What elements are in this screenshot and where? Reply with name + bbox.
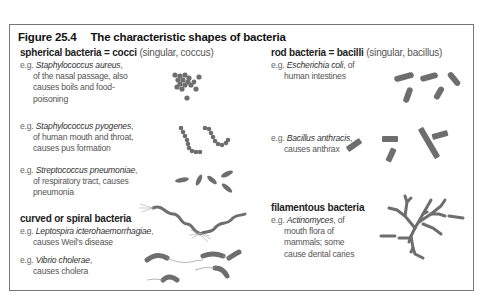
figure-title: Figure 25.4The characteristic shapes of … xyxy=(18,31,286,43)
vibrio-curved-rods-illustration xyxy=(135,250,250,288)
spherical-heading-bold: spherical bacteria = cocci xyxy=(20,47,137,58)
desc-line: pneumonia xyxy=(20,187,170,198)
desc-line: of the nasal passage, also xyxy=(20,71,160,82)
actinomyces-filaments-illustration xyxy=(375,190,470,265)
species-name: Vibrio cholerae xyxy=(36,255,90,265)
example-staph-pyogenes: e.g. Staphylococcus pyogenes, of human m… xyxy=(20,121,170,155)
desc-inline: of xyxy=(348,60,355,70)
rod-heading-sub: (singular, bacillus) xyxy=(366,47,442,58)
eg-prefix: e.g. xyxy=(20,60,34,70)
desc-line: causes boils and food- xyxy=(20,82,160,93)
desc-line: poisoning xyxy=(20,94,160,105)
species-name: Bacillus anthracis xyxy=(287,133,350,143)
spiral-heading: curved or spiral bacteria xyxy=(20,213,131,224)
eg-prefix: e.g. xyxy=(20,255,34,265)
example-e-coli: e.g. Escherichia coli, of human intestin… xyxy=(271,60,401,82)
desc-inline: of xyxy=(338,215,345,225)
staphylococcus-cluster-illustration xyxy=(170,72,220,112)
species-name: Staphylococcus aureus xyxy=(36,60,121,70)
eg-prefix: e.g. xyxy=(20,165,34,175)
diplococcus-pairs-illustration xyxy=(172,168,242,198)
e-coli-rods-illustration xyxy=(390,70,470,110)
species-name: Escherichia coli xyxy=(287,60,344,70)
rod-heading-bold: rod bacteria = bacilli xyxy=(271,47,364,58)
species-name: Streptococcus pneumoniae xyxy=(36,165,135,175)
species-name: Actinomyces xyxy=(287,215,334,225)
figure-title-text: The characteristic shapes of bacteria xyxy=(91,31,286,43)
bacillus-anthracis-rods-illustration xyxy=(350,122,460,172)
desc-line: mouth flora of xyxy=(271,226,381,237)
filamentous-heading-bold: filamentous bacteria xyxy=(271,202,364,213)
species-name: Leptospira icterohaemorrhagiae xyxy=(36,226,151,236)
eg-prefix: e.g. xyxy=(271,133,285,143)
example-staph-aureus: e.g. Staphylococcus aureus, of the nasal… xyxy=(20,60,160,105)
figure-number: Figure 25.4 xyxy=(18,31,77,43)
spherical-heading-sub: (singular, coccus) xyxy=(139,47,213,58)
spherical-heading: spherical bacteria = cocci (singular, co… xyxy=(20,47,214,58)
desc-line: mammals; some xyxy=(271,237,381,248)
leptospira-spirals-illustration xyxy=(135,200,250,245)
filamentous-heading: filamentous bacteria xyxy=(271,202,364,213)
species-name: Staphylococcus pyogenes xyxy=(36,121,131,131)
desc-line: of human mouth and throat, xyxy=(20,132,170,143)
desc-line: human intestines xyxy=(271,71,401,82)
streptococcus-chains-illustration xyxy=(178,125,238,165)
example-actinomyces: e.g. Actinomyces, of mouth flora of mamm… xyxy=(271,215,381,260)
example-strep-pneumoniae: e.g. Streptococcus pneumoniae, of respir… xyxy=(20,165,170,199)
rod-heading: rod bacteria = bacilli (singular, bacill… xyxy=(271,47,442,58)
eg-prefix: e.g. xyxy=(20,121,34,131)
desc-line: cause dental caries xyxy=(271,249,381,260)
desc-line: of respiratory tract, causes xyxy=(20,176,170,187)
eg-prefix: e.g. xyxy=(20,226,34,236)
desc-line: causes pus formation xyxy=(20,143,170,154)
eg-prefix: e.g. xyxy=(271,60,285,70)
spiral-heading-bold: curved or spiral bacteria xyxy=(20,213,131,224)
eg-prefix: e.g. xyxy=(271,215,285,225)
